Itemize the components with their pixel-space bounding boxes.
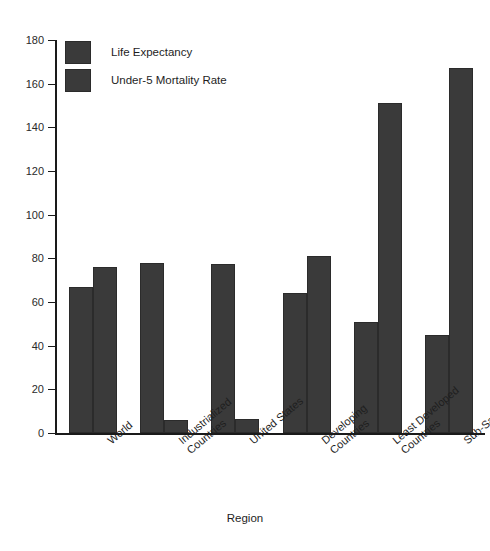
bar-group (140, 40, 188, 433)
legend-swatch (65, 41, 91, 64)
y-axis-tick-label: 120 (26, 163, 44, 179)
y-axis-tick: 20 (48, 389, 55, 390)
x-axis-category-label-line: Countries (398, 447, 406, 457)
x-axis-category-label-line: Sub-Saharan Africa (461, 437, 469, 447)
bar[interactable] (307, 256, 331, 433)
bar-group (425, 40, 473, 433)
bar[interactable] (378, 103, 402, 433)
bar-group (69, 40, 117, 433)
x-axis-category-label: Least DevelopedCountries (390, 437, 407, 457)
y-axis-tick-label: 80 (32, 250, 44, 266)
chart-legend: Life ExpectancyUnder-5 Mortality Rate (65, 38, 227, 94)
y-axis-tick-label: 40 (32, 338, 44, 354)
x-axis-category-label-line: Countries (184, 447, 192, 457)
x-axis-category-label-line: World (105, 437, 113, 447)
y-axis-tick-label: 160 (26, 76, 44, 92)
y-axis-tick: 40 (48, 346, 55, 347)
y-axis-tick: 60 (48, 302, 55, 303)
y-axis-tick: 80 (48, 258, 55, 259)
x-axis-title: Region (0, 512, 490, 524)
legend-label: Under-5 Mortality Rate (111, 74, 227, 86)
bar[interactable] (449, 68, 473, 433)
x-axis-category-label: World (105, 437, 113, 447)
plot-area: 180160140120100806040200 (55, 40, 485, 435)
x-axis-category-label-line: Countries (327, 447, 335, 457)
y-axis-tick: 160 (48, 84, 55, 85)
x-axis-category-labels: WorldIndustrializedCountriesUnited State… (55, 437, 485, 517)
bars-layer (57, 40, 485, 433)
bar[interactable] (140, 263, 164, 433)
y-axis-tick: 120 (48, 171, 55, 172)
bar[interactable] (93, 267, 117, 433)
x-axis-category-label: United States (247, 437, 255, 447)
y-axis-tick: 0 (48, 433, 55, 434)
y-axis-tick-label: 180 (26, 32, 44, 48)
bar-group (354, 40, 402, 433)
y-axis-tick: 140 (48, 127, 55, 128)
chart-page: 180160140120100806040200 Life Expectancy… (0, 0, 490, 551)
x-axis-category-label-line: United States (247, 437, 255, 447)
x-axis-category-label-line: Developing (319, 437, 327, 447)
y-axis-tick: 100 (48, 215, 55, 216)
y-axis-tick: 180 (48, 40, 55, 41)
y-axis-tick-label: 0 (38, 425, 44, 441)
bar-group (283, 40, 331, 433)
y-axis-tick-label: 140 (26, 119, 44, 135)
legend-item[interactable]: Under-5 Mortality Rate (65, 66, 227, 94)
x-axis-category-label: IndustrializedCountries (176, 437, 193, 457)
x-axis-category-label-line: Industrialized (176, 437, 184, 447)
y-axis-tick-label: 60 (32, 294, 44, 310)
bar[interactable] (69, 287, 93, 433)
x-axis-category-label: DevelopingCountries (319, 437, 336, 457)
legend-label: Life Expectancy (111, 46, 192, 58)
x-axis-category-label: Sub-Saharan Africa (461, 437, 469, 447)
legend-item[interactable]: Life Expectancy (65, 38, 227, 66)
bar-group (211, 40, 259, 433)
legend-swatch (65, 69, 91, 92)
y-axis-tick-label: 20 (32, 381, 44, 397)
x-axis-category-label-line: Least Developed (390, 437, 398, 447)
y-axis-tick-label: 100 (26, 207, 44, 223)
